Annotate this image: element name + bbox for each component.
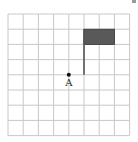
point-a-label: A [64,77,73,88]
grid-canvas: A [0,0,138,142]
corner-mark [132,0,136,3]
flag-rectangle [84,29,114,44]
grid-diagram: A [0,0,138,142]
